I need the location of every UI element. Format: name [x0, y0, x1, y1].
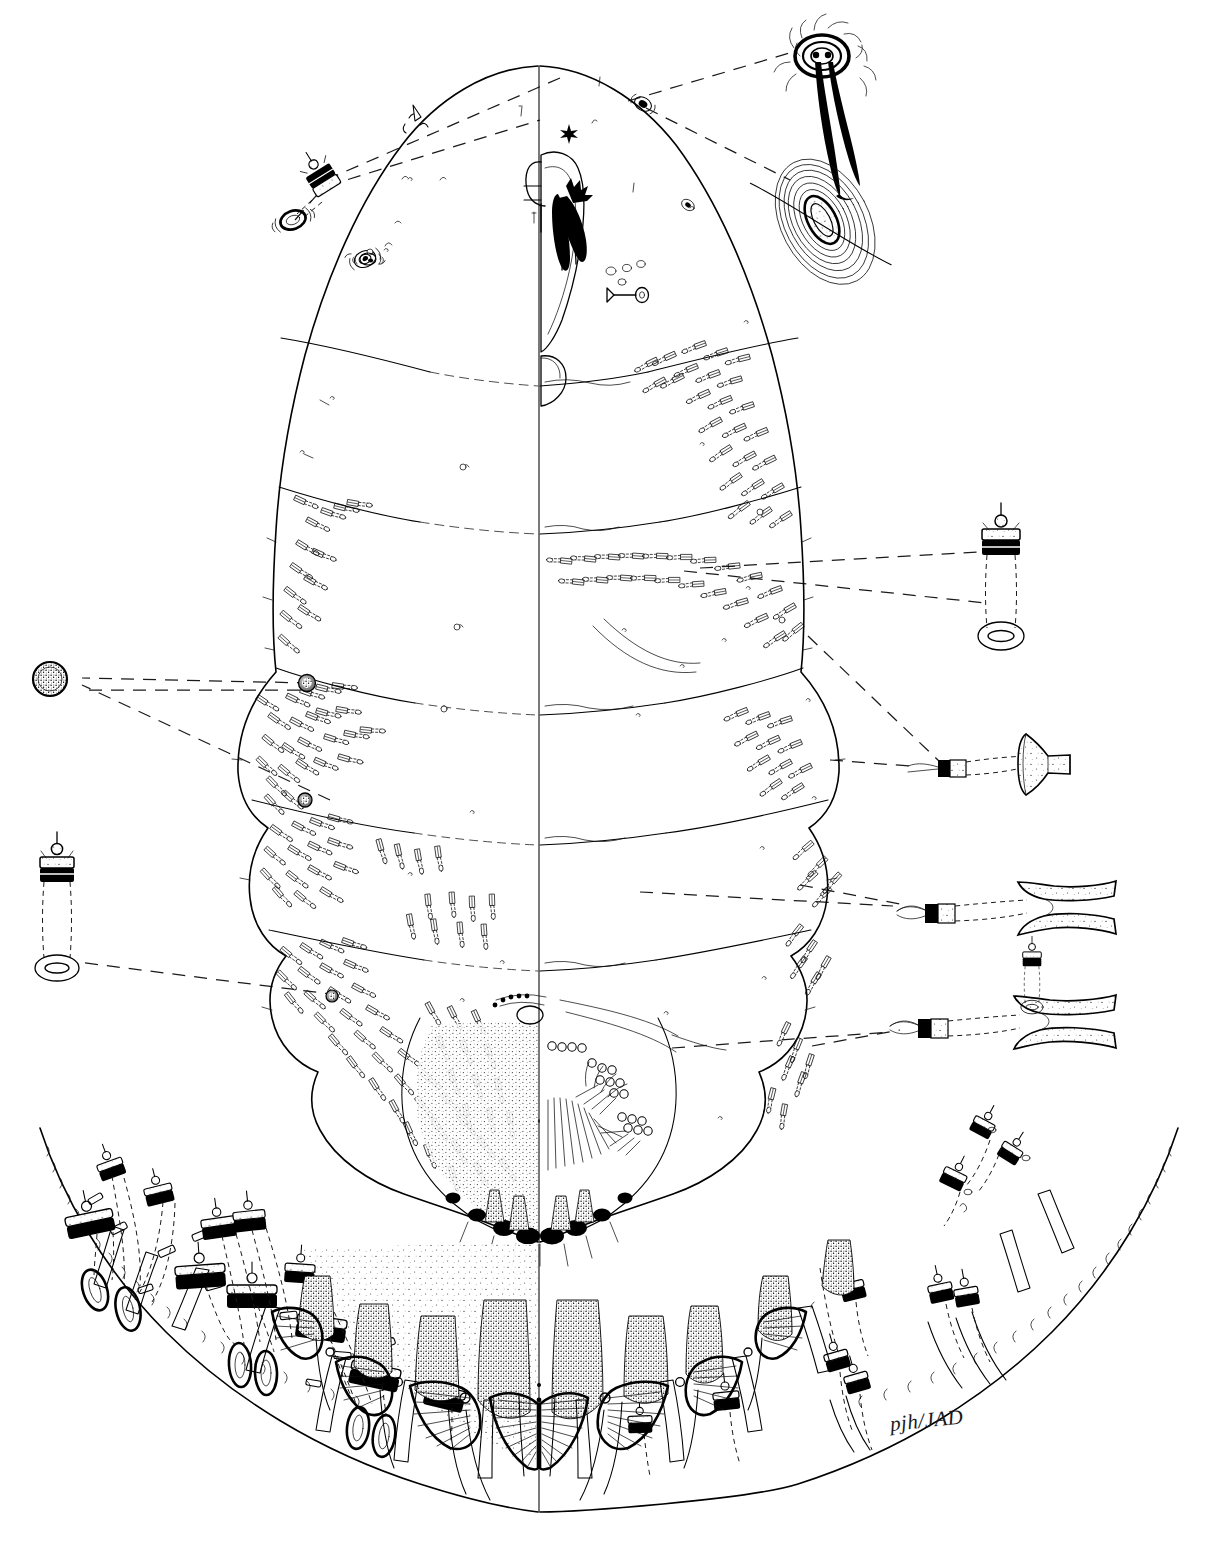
enlarged-perivulvar-pore	[33, 662, 67, 696]
illustration-plate	[0, 0, 1212, 1567]
